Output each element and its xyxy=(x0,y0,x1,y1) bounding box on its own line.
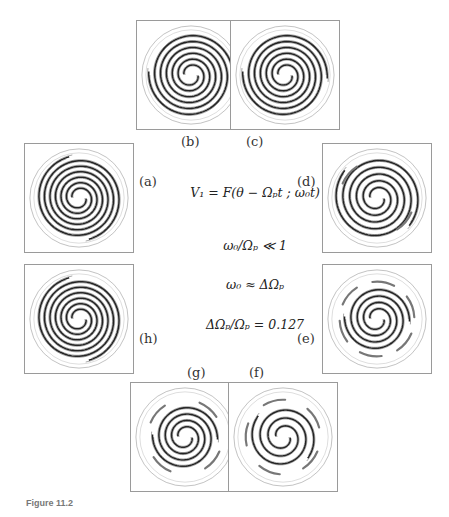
spiral-panel-h xyxy=(24,264,134,374)
equation-potential: V₁ = F(θ − Ωₚt ; ω₀t) xyxy=(155,185,355,200)
equation-delta-ratio: ΔΩₚ/Ωₚ = 0.127 xyxy=(155,317,355,332)
panel-label-f: (f) xyxy=(249,365,264,380)
spiral-plot-icon xyxy=(231,21,339,129)
spiral-panel-a xyxy=(24,143,134,253)
panel-label-c: (c) xyxy=(246,134,263,149)
spiral-panel-c xyxy=(230,20,340,130)
panel-label-e: (e) xyxy=(297,331,315,346)
equation-frequency-ratio: ω₀/Ωₚ ≪ 1 xyxy=(155,238,355,253)
spiral-plot-icon xyxy=(25,265,133,373)
panel-label-b: (b) xyxy=(181,134,199,149)
figure-caption: Figure 11.2 xyxy=(26,498,73,508)
spiral-plot-icon xyxy=(229,383,337,491)
equation-omega-approx: ω₀ ≈ ΔΩₚ xyxy=(155,277,355,292)
panel-label-g: (g) xyxy=(187,365,205,380)
spiral-plot-icon xyxy=(131,383,239,491)
panel-label-h: (h) xyxy=(139,331,158,346)
spiral-plot-icon xyxy=(25,144,133,252)
spiral-panel-f xyxy=(228,382,338,492)
spiral-plot-icon xyxy=(137,21,245,129)
spiral-panel-g xyxy=(130,382,240,492)
